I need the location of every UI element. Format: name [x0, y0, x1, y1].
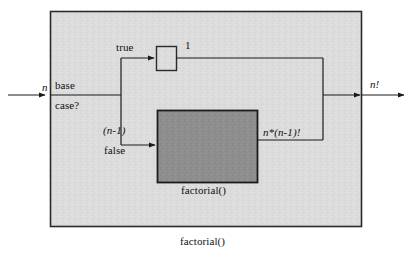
outer-box-caption: factorial()	[180, 236, 225, 247]
recursive-result-label: n*(n-1)!	[263, 127, 300, 138]
inner-factorial-box	[158, 111, 258, 183]
one-value-label: 1	[185, 40, 191, 51]
one-value-box	[157, 47, 177, 71]
false-branch-label: false	[104, 145, 125, 156]
true-branch-label: true	[116, 42, 134, 53]
diagram-canvas	[0, 0, 411, 265]
base-case-line2: case?	[55, 100, 79, 111]
base-case-line1: base	[55, 80, 75, 91]
inner-box-caption: factorial()	[181, 185, 226, 196]
recursive-arg-label: (n-1)	[103, 125, 126, 136]
output-label: n!	[370, 79, 379, 90]
recursion-diagram-figure: n base case? true 1 (n-1) false n*(n-1)!…	[0, 0, 411, 265]
input-label: n	[42, 82, 48, 93]
